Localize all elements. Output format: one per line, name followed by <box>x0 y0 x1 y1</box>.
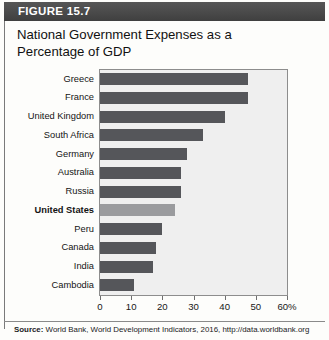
x-axis-tick <box>225 296 226 300</box>
category-label: Greece <box>2 74 94 84</box>
category-label: France <box>2 92 94 102</box>
category-labels-layer: GreeceFranceUnited KingdomSouth AfricaGe… <box>0 70 329 295</box>
figure-number-label: FIGURE 15.7 <box>18 5 90 17</box>
x-axis-tick <box>131 296 132 300</box>
x-axis-tick <box>194 296 195 300</box>
category-label: Germany <box>2 149 94 159</box>
category-label: United Kingdom <box>2 111 94 121</box>
chart-title: National Government Expenses as a Percen… <box>17 26 297 60</box>
figure-header-bar: FIGURE 15.7 <box>4 2 325 21</box>
x-axis-tick-label: 0 <box>97 301 102 312</box>
bottom-border-rule <box>4 321 325 322</box>
category-label: Australia <box>2 167 94 177</box>
category-label: Russia <box>2 186 94 196</box>
source-label: Source: <box>14 325 43 334</box>
category-label: South Africa <box>2 130 94 140</box>
source-text: World Bank, World Development Indicators… <box>43 325 309 334</box>
x-axis-tick <box>162 296 163 300</box>
category-label: Canada <box>2 242 94 252</box>
x-axis-tick-label: 50 <box>250 301 261 312</box>
category-label: India <box>2 261 94 271</box>
figure-card: FIGURE 15.7 National Government Expenses… <box>0 0 329 340</box>
x-axis-tick-label: 60% <box>277 301 296 312</box>
source-note: Source: World Bank, World Development In… <box>14 325 326 334</box>
x-axis-tick-label: 30 <box>188 301 199 312</box>
x-axis-tick-label: 10 <box>126 301 137 312</box>
x-axis-tick <box>287 296 288 300</box>
category-label: Peru <box>2 224 94 234</box>
x-axis-tick-label: 40 <box>219 301 230 312</box>
x-axis-tick <box>100 296 101 300</box>
x-axis-tick <box>256 296 257 300</box>
x-axis: 0102030405060% <box>100 296 289 318</box>
category-label: Cambodia <box>2 280 94 290</box>
x-axis-tick-label: 20 <box>157 301 168 312</box>
category-label: United States <box>2 205 94 215</box>
